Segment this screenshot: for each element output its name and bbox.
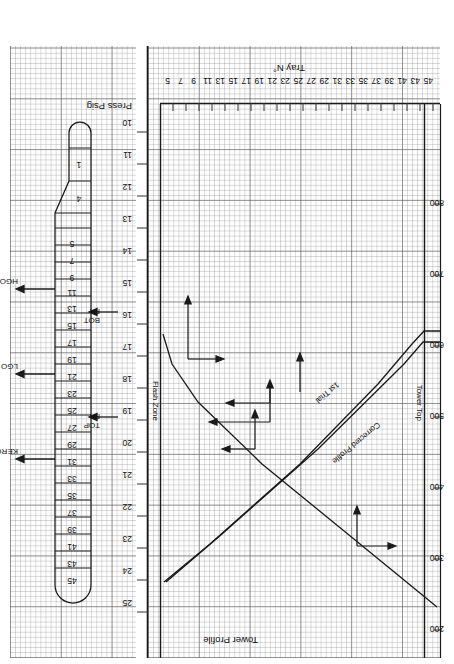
drawoff-arrows: [16, 286, 55, 463]
annotation-arrows: [185, 296, 396, 549]
tray-axis-ticks: [173, 103, 433, 111]
tower-vessel: [55, 122, 91, 603]
chart-page: 45 43 41 39 37 35 33 31 29 27 25 23 21 1…: [0, 0, 454, 664]
tower-tray-lines: [55, 148, 91, 568]
chart-sheet: 45 43 41 39 37 35 33 31 29 27 25 23 21 1…: [0, 0, 454, 664]
pumparound-arrows: [89, 309, 118, 421]
chart-vector-layer: [0, 0, 454, 664]
pressure-axis-ticks: [137, 132, 148, 612]
curve-corrected-profile: [166, 342, 440, 582]
profile-curves: [163, 331, 440, 607]
